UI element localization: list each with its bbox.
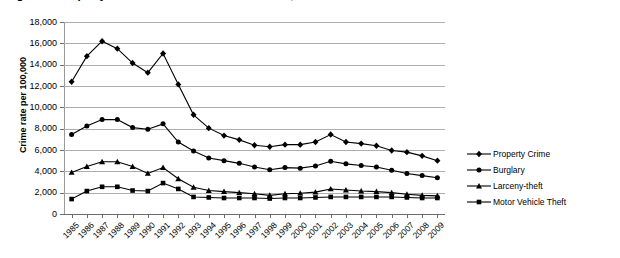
y-axis-tick-label: 18,000 xyxy=(0,18,57,27)
data-point-marker xyxy=(100,185,105,190)
data-point-marker xyxy=(312,139,318,145)
y-axis-tick-label: 12,000 xyxy=(0,82,57,91)
data-point-marker xyxy=(267,167,272,172)
x-axis-tick xyxy=(194,214,195,218)
data-point-marker xyxy=(374,195,379,200)
legend-label: Property Crime xyxy=(492,149,550,159)
data-point-marker xyxy=(313,195,318,200)
data-point-marker xyxy=(191,195,196,200)
data-point-marker xyxy=(100,117,105,122)
data-point-marker xyxy=(160,165,166,170)
y-axis-tick-label: 0 xyxy=(0,210,57,219)
x-axis-tick xyxy=(102,214,103,218)
data-point-marker xyxy=(389,147,395,153)
data-point-marker xyxy=(252,196,257,201)
data-point-marker xyxy=(477,200,482,205)
data-point-marker xyxy=(344,195,349,200)
data-point-marker xyxy=(236,137,242,143)
x-axis-tick xyxy=(133,214,134,218)
data-point-marker xyxy=(252,165,257,170)
data-point-marker xyxy=(206,156,211,161)
data-point-marker xyxy=(389,168,394,173)
data-point-marker xyxy=(206,195,211,200)
legend-marker-square xyxy=(466,195,492,209)
data-point-marker xyxy=(191,149,196,154)
data-point-marker xyxy=(373,143,379,149)
data-point-marker xyxy=(115,185,120,190)
plot-area: 02,0004,0006,0008,00010,00012,00014,0001… xyxy=(64,22,445,214)
data-point-marker xyxy=(477,168,482,173)
data-point-marker xyxy=(405,195,410,200)
x-axis-tick xyxy=(148,214,149,218)
data-point-marker xyxy=(404,171,409,176)
x-axis-tick xyxy=(178,214,179,218)
data-point-marker xyxy=(161,121,166,126)
x-axis-tick xyxy=(117,214,118,218)
legend-label: Burglary xyxy=(492,165,525,175)
data-point-marker xyxy=(69,79,75,85)
data-point-marker xyxy=(252,142,258,148)
legend-item-larceny-theft[interactable]: Larceny-theft xyxy=(466,178,566,194)
x-axis-tick xyxy=(255,214,256,218)
x-axis-tick xyxy=(361,214,362,218)
data-point-marker xyxy=(130,188,135,193)
data-point-marker xyxy=(191,184,197,189)
chart-title: Figure 1. Property Crime Rates in the Un… xyxy=(6,0,353,1)
data-point-marker xyxy=(343,161,348,166)
y-axis-tick xyxy=(60,214,64,215)
data-point-marker xyxy=(84,124,89,129)
data-point-marker xyxy=(328,195,333,200)
legend-item-motor-vehicle-theft[interactable]: Motor Vehicle Theft xyxy=(466,194,566,210)
x-axis-tick xyxy=(407,214,408,218)
data-point-marker xyxy=(420,196,425,201)
x-axis-tick xyxy=(315,214,316,218)
data-point-marker xyxy=(313,164,318,169)
data-point-marker xyxy=(267,196,272,201)
legend-label: Motor Vehicle Theft xyxy=(492,197,566,207)
data-point-marker xyxy=(222,158,227,163)
x-axis-tick xyxy=(300,214,301,218)
data-point-marker xyxy=(358,140,364,146)
data-point-marker xyxy=(69,132,74,137)
x-axis-tick xyxy=(437,214,438,218)
y-axis-tick-label: 8,000 xyxy=(0,124,57,133)
legend-marker-circle xyxy=(466,163,492,177)
data-point-marker xyxy=(298,166,303,171)
data-point-marker xyxy=(404,149,410,155)
data-point-marker xyxy=(297,141,303,147)
data-point-marker xyxy=(435,175,440,180)
data-point-marker xyxy=(145,127,150,132)
legend-item-property-crime[interactable]: Property Crime xyxy=(466,146,566,162)
y-axis-tick-label: 14,000 xyxy=(0,60,57,69)
legend-marker-triangle xyxy=(466,179,492,193)
x-axis-tick xyxy=(346,214,347,218)
x-axis-tick xyxy=(285,214,286,218)
x-axis-tick xyxy=(163,214,164,218)
y-axis-tick-label: 10,000 xyxy=(0,103,57,112)
data-point-marker xyxy=(328,159,333,164)
data-point-marker xyxy=(435,196,440,201)
data-point-marker xyxy=(359,163,364,168)
data-point-marker xyxy=(175,81,181,87)
legend-label: Larceny-theft xyxy=(492,181,543,191)
x-axis-tick xyxy=(87,214,88,218)
data-point-marker xyxy=(176,140,181,145)
x-axis-tick xyxy=(376,214,377,218)
data-point-marker xyxy=(298,196,303,201)
x-axis-tick xyxy=(331,214,332,218)
legend-item-burglary[interactable]: Burglary xyxy=(466,162,566,178)
y-axis-tick-label: 2,000 xyxy=(0,188,57,197)
data-point-marker xyxy=(343,139,349,145)
x-axis-tick xyxy=(209,214,210,218)
data-point-marker xyxy=(359,195,364,200)
series-property-crime xyxy=(69,38,441,164)
x-axis-tick xyxy=(392,214,393,218)
data-point-marker xyxy=(146,189,151,194)
data-point-marker xyxy=(161,181,166,186)
data-point-marker xyxy=(130,125,135,130)
data-point-marker xyxy=(434,157,440,163)
data-point-marker xyxy=(115,117,120,122)
data-point-marker xyxy=(328,131,334,137)
legend-marker-diamond xyxy=(466,147,492,161)
data-point-marker xyxy=(389,195,394,200)
